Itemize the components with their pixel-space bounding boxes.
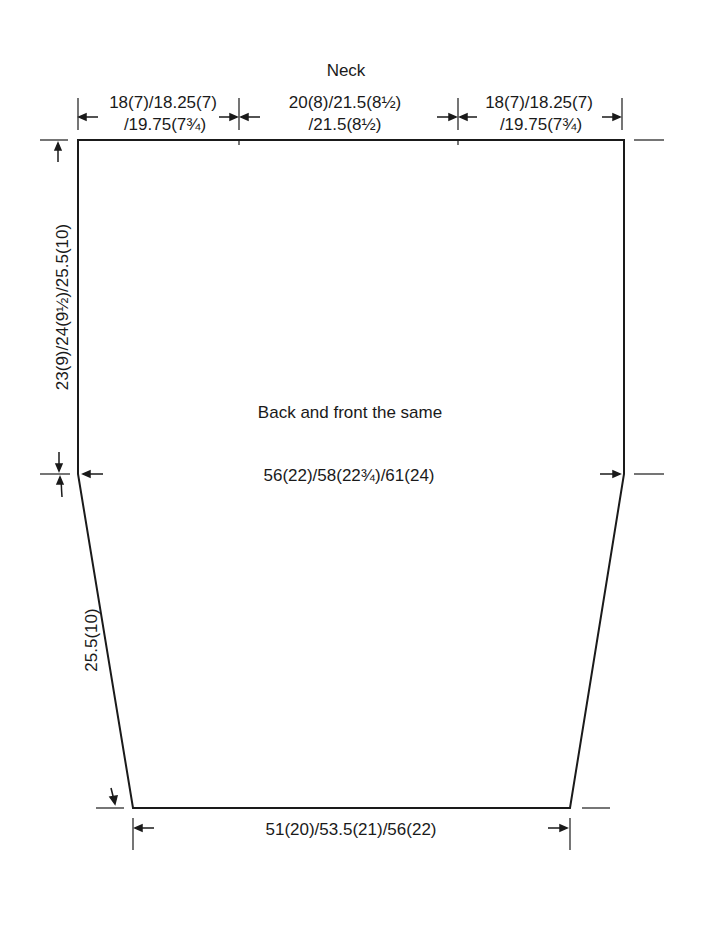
top-right-width-line2: /19.75(7¾)	[500, 115, 582, 134]
top-right-width-line1: 18(7)/18.25(7)	[485, 93, 593, 112]
neck-label: Neck	[327, 61, 366, 80]
top-center-width-line1: 20(8)/21.5(8½)	[289, 93, 401, 112]
side-length-arrow	[110, 788, 117, 804]
top-center-width-line2: /21.5(8½)	[309, 115, 382, 134]
top-left-width-line2: /19.75(7¾)	[124, 115, 206, 134]
hem-width-label: 51(20)/53.5(21)/56(22)	[265, 820, 436, 839]
center-label: Back and front the same	[258, 403, 442, 422]
chest-width-label: 56(22)/58(22¾)/61(24)	[263, 466, 434, 485]
schematic-canvas: Neck 18(7)/18.25(7) /19.75(7¾) 20(8)/21.…	[0, 0, 704, 945]
top-left-width-line1: 18(7)/18.25(7)	[109, 93, 217, 112]
side-length-label: 25.5(10)	[82, 608, 101, 671]
armhole-depth-label: 23(9)/24(9½)/25.5(10)	[53, 224, 72, 390]
